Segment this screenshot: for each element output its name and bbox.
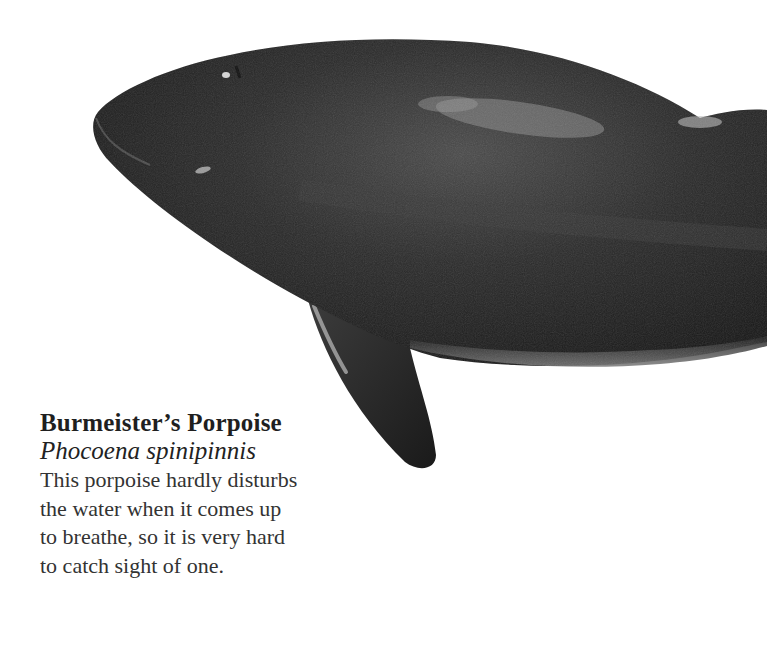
description-line: to breathe, so it is very hard xyxy=(40,523,370,552)
description-line: This porpoise hardly disturbs xyxy=(40,466,370,495)
description-line: the water when it comes up xyxy=(40,495,370,524)
species-common-name: Burmeister’s Porpoise xyxy=(40,408,370,437)
description-line: to catch sight of one. xyxy=(40,552,370,581)
species-latin-name: Phocoena spinipinnis xyxy=(40,437,370,465)
species-description: This porpoise hardly disturbs the water … xyxy=(40,466,370,580)
species-caption: Burmeister’s Porpoise Phocoena spinipinn… xyxy=(40,408,370,580)
